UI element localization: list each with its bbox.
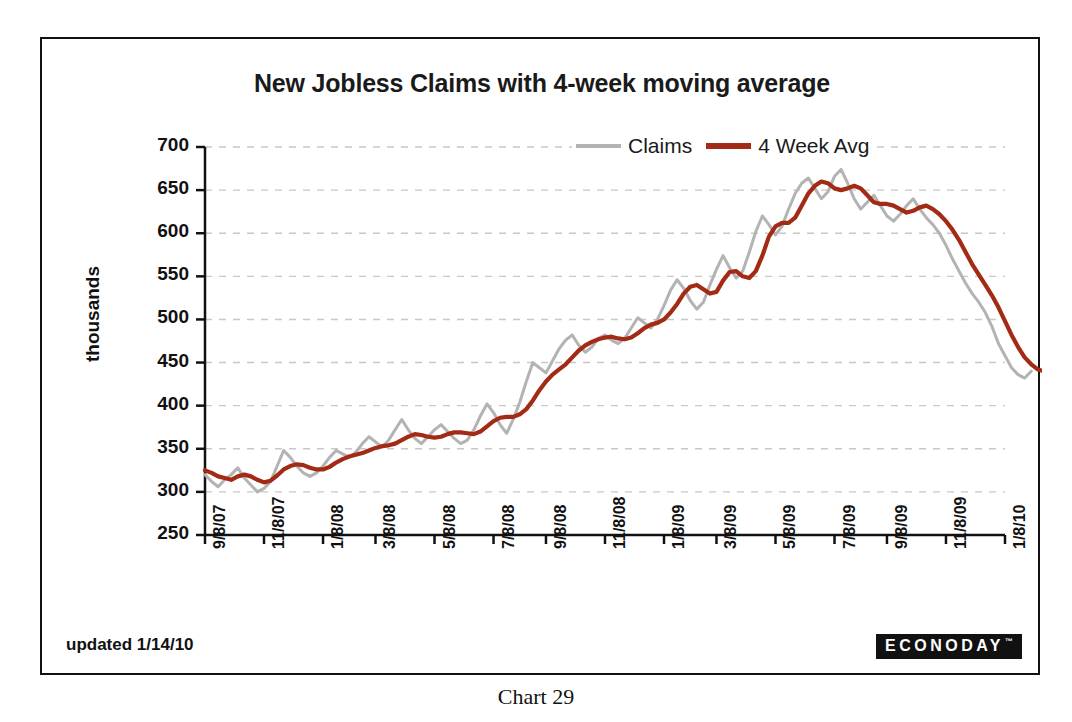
x-tick-label: 1/8/10 bbox=[1011, 505, 1029, 549]
x-tick-label: 5/8/08 bbox=[441, 505, 459, 549]
legend-swatch-moving-average bbox=[706, 143, 751, 149]
y-tick-label: 300 bbox=[127, 479, 189, 501]
gridlines bbox=[205, 147, 1005, 492]
y-axis-ticks bbox=[196, 147, 205, 535]
plot-area bbox=[42, 39, 1042, 677]
y-tick-label: 400 bbox=[127, 393, 189, 415]
econoday-logo-text: ECONODAY bbox=[885, 638, 1004, 654]
y-tick-label: 600 bbox=[127, 220, 189, 242]
x-tick-label: 9/8/08 bbox=[552, 505, 570, 549]
chart-caption: Chart 29 bbox=[0, 684, 1072, 710]
legend-item-moving-average: 4 Week Avg bbox=[706, 134, 869, 158]
chart-frame: New Jobless Claims with 4-week moving av… bbox=[40, 37, 1040, 675]
x-axis-ticks bbox=[205, 535, 1005, 544]
x-tick-label: 1/8/08 bbox=[329, 505, 347, 549]
series-line-moving-average bbox=[205, 181, 1042, 482]
econoday-logo: ECONODAY™ bbox=[876, 634, 1022, 659]
legend-swatch-claims bbox=[576, 144, 621, 148]
x-tick-label: 11/8/08 bbox=[611, 497, 629, 550]
y-tick-label: 650 bbox=[127, 177, 189, 199]
x-tick-label: 11/8/07 bbox=[270, 497, 288, 550]
y-tick-label: 250 bbox=[127, 522, 189, 544]
legend-label-moving-average: 4 Week Avg bbox=[758, 134, 869, 158]
legend-label-claims: Claims bbox=[628, 134, 692, 158]
y-tick-label: 700 bbox=[127, 134, 189, 156]
series-line-claims bbox=[205, 169, 1031, 491]
y-tick-label: 500 bbox=[127, 306, 189, 328]
y-tick-label: 450 bbox=[127, 350, 189, 372]
chart-page: New Jobless Claims with 4-week moving av… bbox=[0, 0, 1072, 722]
legend-item-claims: Claims bbox=[576, 134, 692, 158]
x-tick-label: 7/8/09 bbox=[841, 505, 859, 549]
data-series-layer bbox=[205, 169, 1042, 491]
chart-legend: Claims 4 Week Avg bbox=[572, 132, 873, 160]
x-tick-label: 3/8/08 bbox=[381, 505, 399, 549]
updated-note: updated 1/14/10 bbox=[66, 635, 194, 655]
x-tick-label: 3/8/09 bbox=[722, 505, 740, 549]
y-tick-label: 550 bbox=[127, 263, 189, 285]
x-tick-label: 9/8/09 bbox=[893, 505, 911, 549]
trademark-icon: ™ bbox=[1005, 638, 1013, 646]
x-tick-label: 5/8/09 bbox=[781, 505, 799, 549]
x-tick-label: 1/8/09 bbox=[670, 505, 688, 549]
x-tick-label: 9/8/07 bbox=[211, 505, 229, 549]
x-tick-label: 11/8/09 bbox=[952, 497, 970, 550]
x-tick-label: 7/8/08 bbox=[500, 505, 518, 549]
y-tick-label: 350 bbox=[127, 436, 189, 458]
